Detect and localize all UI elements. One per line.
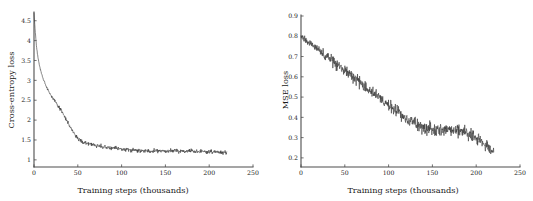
- data-series-line: [301, 35, 494, 153]
- y-tick-label: 1.5: [21, 136, 31, 143]
- x-tick-label: 0: [299, 169, 303, 176]
- y-tick-label: 3.5: [21, 57, 31, 64]
- left-chart-axes: [34, 12, 253, 167]
- chart-panel-mse: 050100150200250 0.20.30.40.50.60.70.80.9…: [266, 0, 533, 201]
- x-axis-title: Training steps (thousands): [347, 185, 458, 195]
- y-tick-label: 2: [27, 116, 31, 123]
- y-tick-label: 1: [27, 156, 31, 163]
- y-tick-label: 2.5: [21, 96, 31, 103]
- x-axis-title: Training steps (thousands): [77, 185, 188, 195]
- y-tick-label: 0.4: [288, 114, 298, 121]
- x-axis-tick-labels: 050100150200250: [32, 169, 259, 176]
- figure-row: 050100150200250 11.522.533.544.5 Trainin…: [0, 0, 533, 201]
- x-tick-label: 100: [383, 169, 395, 176]
- y-axis-tick-labels: 11.522.533.544.5: [21, 17, 31, 163]
- y-tick-label: 0.8: [288, 32, 298, 39]
- x-tick-label: 50: [74, 169, 82, 176]
- x-tick-label: 100: [116, 169, 128, 176]
- x-tick-label: 200: [203, 169, 215, 176]
- x-tick-label: 200: [470, 169, 482, 176]
- y-axis-title: Cross-entropy loss: [6, 52, 16, 129]
- y-tick-label: 0.9: [288, 12, 298, 19]
- mse-loss-chart: 050100150200250 0.20.30.40.50.60.70.80.9…: [266, 0, 533, 201]
- y-tick-label: 3: [27, 77, 31, 84]
- x-tick-label: 250: [514, 169, 526, 176]
- y-tick-label: 0.2: [288, 154, 298, 161]
- x-tick-label: 0: [32, 169, 36, 176]
- cross-entropy-loss-chart: 050100150200250 11.522.533.544.5 Trainin…: [0, 0, 266, 201]
- chart-panel-cross-entropy: 050100150200250 11.522.533.544.5 Trainin…: [0, 0, 266, 201]
- x-tick-label: 50: [341, 169, 349, 176]
- x-axis-tick-labels: 050100150200250: [299, 169, 526, 176]
- y-tick-label: 0.3: [288, 134, 298, 141]
- x-tick-label: 150: [159, 169, 171, 176]
- data-series-line: [34, 13, 227, 155]
- x-tick-label: 150: [426, 169, 438, 176]
- y-tick-label: 0.7: [288, 53, 298, 60]
- y-axis-title: MSE loss: [280, 71, 290, 110]
- x-tick-label: 250: [247, 169, 259, 176]
- y-tick-label: 4: [27, 37, 31, 44]
- y-tick-label: 4.5: [21, 17, 31, 24]
